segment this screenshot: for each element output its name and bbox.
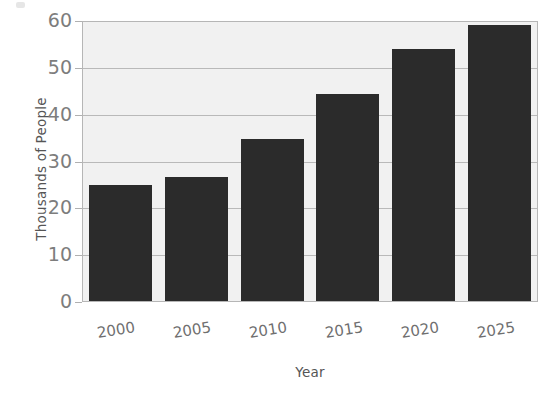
x-axis-tick-label: 2005 (151, 315, 233, 345)
x-axis-title: Year (82, 364, 538, 380)
x-axis-tick-label: 2020 (379, 315, 461, 345)
x-axis-tick-label: 2010 (227, 315, 309, 345)
x-axis-tick-label: 2000 (75, 315, 157, 345)
x-axis-tick-label-group: 2000 2005 2010 2015 2020 2025 (0, 0, 557, 400)
x-axis-tick-label: 2025 (455, 315, 537, 345)
bar-chart-figure: Thousands of People 60 50 40 30 20 10 0 (0, 0, 557, 400)
x-axis-tick-label: 2015 (303, 315, 385, 345)
